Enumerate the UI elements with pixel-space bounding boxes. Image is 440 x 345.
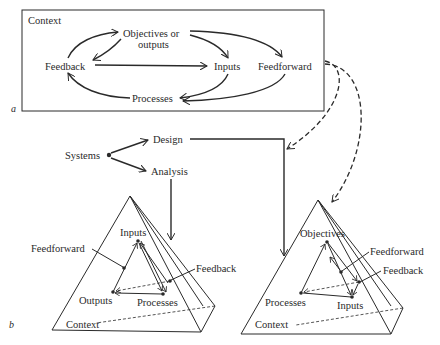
- left-outputs-label: Outputs: [79, 295, 112, 306]
- right-feedforward-label: Feedforward: [370, 246, 424, 257]
- panel-label-a: a: [11, 103, 16, 114]
- left-feedforward-label: Feedforward: [31, 243, 85, 254]
- right-pyramid-front-face: [241, 200, 391, 334]
- right-arrow-feedback-to-inputs: [353, 284, 358, 295]
- feedback-label: Feedback: [45, 61, 86, 72]
- right-arrow-processes-to-objectives: [301, 244, 325, 293]
- left-pyramid-inner-edge: [130, 196, 203, 306]
- arrow-systems-to-design: [111, 140, 148, 153]
- systems-node: [107, 153, 111, 157]
- left-inputs-node: [136, 239, 140, 243]
- arrow-design-to-right-pyramid: [190, 139, 284, 256]
- dashed-arrow-to-design-line: [287, 61, 339, 149]
- panel-label-b: b: [9, 319, 14, 330]
- left-pyramid: Inputs Feedforward Feedback Outputs Proc…: [31, 196, 237, 332]
- right-feedback-label: Feedback: [383, 265, 424, 276]
- arrow-inputs-to-processes: [180, 74, 228, 98]
- processes-label: Processes: [132, 93, 173, 104]
- right-inputs-label: Inputs: [337, 300, 363, 311]
- right-objectives-label: Objectives: [300, 228, 345, 239]
- inputs-label: Inputs: [214, 61, 240, 72]
- right-context-label: Context: [255, 319, 288, 330]
- dashed-arrow-to-right-pyramid: [325, 64, 361, 202]
- arrow-feedback-to-inputs: [95, 65, 207, 66]
- left-feedback-label: Feedback: [196, 263, 237, 274]
- left-feedforward-leader: [92, 249, 123, 267]
- left-arrow-feedback-to-inputs: [140, 243, 168, 283]
- right-pyramid: Objectives Feedforward Feedback Processe…: [241, 200, 424, 334]
- left-pyramid-hidden-edge: [96, 306, 215, 323]
- arrow-objectives-to-inputs: [190, 35, 228, 58]
- arrow-feedforward-to-processes: [183, 74, 285, 101]
- arrow-objectives-to-feedforward: [190, 31, 282, 57]
- left-arrow-outputs-to-inputs: [113, 243, 137, 292]
- feedforward-label: Feedforward: [258, 61, 312, 72]
- systems-label: Systems: [65, 150, 100, 161]
- left-context-label: Context: [66, 319, 99, 330]
- objectives-label-line2: outputs: [138, 39, 169, 50]
- left-arrow-processes-to-outputs: [115, 293, 162, 294]
- systems-diagram: Context a Objectives or outputs Feedback…: [0, 0, 440, 345]
- arrow-feedback-to-objectives: [68, 32, 118, 58]
- left-inputs-label: Inputs: [120, 227, 146, 238]
- arrow-systems-to-analysis: [111, 158, 146, 171]
- systems-branch: Systems Design Analysis: [65, 134, 284, 256]
- right-line-inputs-to-processes: [303, 293, 351, 297]
- left-arrow-feedback-to-outputs: [116, 281, 170, 291]
- arrow-objectives-to-feedback: [93, 39, 121, 60]
- objectives-label-line1: Objectives or: [123, 28, 180, 39]
- right-arrow-feedback-to-processes: [304, 282, 359, 292]
- analysis-label: Analysis: [151, 166, 188, 177]
- right-processes-label: Processes: [265, 297, 306, 308]
- context-label: Context: [28, 15, 61, 26]
- panel-a: Context a Objectives or outputs Feedback…: [11, 10, 324, 114]
- left-processes-label: Processes: [137, 297, 178, 308]
- arrow-processes-to-feedback: [68, 73, 130, 98]
- left-feedback-leader: [171, 269, 195, 280]
- design-label: Design: [153, 134, 183, 145]
